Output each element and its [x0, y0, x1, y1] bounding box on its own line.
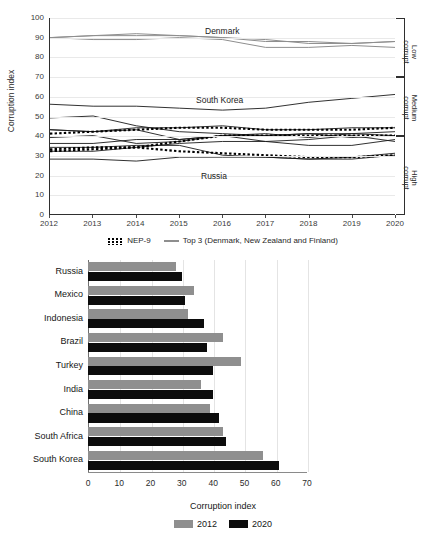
x-tick-mark [179, 215, 180, 218]
bar-category-label: South Korea [0, 455, 83, 464]
y-tick-label: 10 [26, 191, 44, 199]
bracket-label-high-corrupt: Highcorrupt [402, 150, 418, 206]
figure-container: Corruption index 0102030405060708090100 … [0, 0, 446, 533]
bar-turkey-2012 [88, 357, 241, 366]
gray-line-icon [164, 240, 179, 242]
bar-chart-legend: 2012 2020 [0, 519, 446, 529]
bar-gridline [245, 260, 246, 472]
bar-category-label: Mexico [0, 290, 83, 299]
x-tick-mark [265, 215, 266, 218]
x-tick-label: 2016 [206, 220, 238, 228]
gridline [50, 18, 395, 19]
line-series-finland [50, 38, 395, 48]
bar-brazil-2012 [88, 333, 223, 342]
y-tick-label: 0 [26, 211, 44, 219]
gridline [50, 57, 395, 58]
x-tick-label: 2017 [249, 220, 281, 228]
bar-gridline [308, 260, 309, 472]
bar-x-tick-label: 70 [293, 479, 321, 488]
bar-china-2012 [88, 404, 210, 413]
bar-x-tick-label: 40 [199, 479, 227, 488]
bar-russia-2020 [88, 272, 182, 281]
x-tick-label: 2015 [163, 220, 195, 228]
legend-item-nep-9: NEP-9 [108, 236, 151, 245]
line-series-nep-9-upper-average [50, 128, 395, 134]
line-chart: Corruption index 0102030405060708090100 … [0, 0, 446, 258]
gridline [50, 195, 395, 196]
bar-india-2020 [88, 390, 213, 399]
legend-label-2012: 2012 [197, 519, 217, 529]
legend-item-2012: 2012 [174, 519, 217, 529]
bar-china-2020 [88, 413, 219, 422]
bar-category-label: Brazil [0, 337, 83, 346]
gridline [50, 77, 395, 78]
x-tick-mark [222, 215, 223, 218]
legend-label-top-3: Top 3 (Denmark, New Zealand and Finland) [183, 236, 338, 245]
bar-category-label: China [0, 408, 83, 417]
gridline [50, 136, 395, 137]
bar-south-korea-2020 [88, 461, 279, 470]
y-tick-label: 70 [26, 73, 44, 81]
x-tick-label: 2019 [336, 220, 368, 228]
bar-south-africa-2012 [88, 427, 223, 436]
bar-india-2012 [88, 380, 201, 389]
y-tick-label: 30 [26, 152, 44, 160]
y-tick-label: 50 [26, 113, 44, 121]
bar-x-tick-label: 20 [137, 479, 165, 488]
bar-category-label: Indonesia [0, 314, 83, 323]
bar-x-tick-label: 10 [105, 479, 133, 488]
y-tick-label: 60 [26, 93, 44, 101]
bar-indonesia-2012 [88, 309, 188, 318]
bar-chart-x-axis-title: Corruption index [0, 501, 446, 511]
y-tick-label: 20 [26, 172, 44, 180]
bar-chart-x-axis-line [88, 472, 307, 473]
annotation-russia: Russia [201, 172, 227, 181]
line-chart-plot-area [49, 18, 395, 215]
x-tick-label: 2013 [76, 220, 108, 228]
line-series-india [50, 134, 395, 144]
bar-category-label: India [0, 385, 83, 394]
y-tick-label: 90 [26, 34, 44, 42]
gridline [50, 117, 395, 118]
bar-category-label: Turkey [0, 361, 83, 370]
bar-x-tick-label: 60 [262, 479, 290, 488]
bar-chart: RussiaMexicoIndonesiaBrazilTurkeyIndiaCh… [0, 258, 446, 533]
bar-turkey-2020 [88, 366, 213, 375]
y-tick-label: 100 [26, 14, 44, 22]
gridline [50, 156, 395, 157]
dotted-line-icon [108, 237, 123, 245]
y-tick-label: 80 [26, 53, 44, 61]
x-tick-label: 2014 [120, 220, 152, 228]
bar-mexico-2020 [88, 296, 185, 305]
bar-category-label: Russia [0, 267, 83, 276]
bar-brazil-2020 [88, 343, 207, 352]
x-tick-mark [136, 215, 137, 218]
annotation-denmark: Denmark [205, 27, 239, 36]
bar-south-korea-2012 [88, 451, 263, 460]
line-chart-legend: NEP-9 Top 3 (Denmark, New Zealand and Fi… [0, 236, 446, 245]
x-tick-label: 2020 [379, 220, 411, 228]
x-tick-label: 2012 [33, 220, 65, 228]
legend-item-top-3: Top 3 (Denmark, New Zealand and Finland) [164, 236, 338, 245]
bar-x-tick-label: 0 [74, 479, 102, 488]
x-tick-label: 2018 [293, 220, 325, 228]
annotation-south-korea: South Korea [196, 96, 243, 105]
bar-gridline [277, 260, 278, 472]
bracket-label-medium-corrupt: Mediumcorrupt [402, 80, 418, 136]
bar-x-tick-label: 50 [230, 479, 258, 488]
line-chart-y-axis-title: Corruption index [6, 56, 16, 146]
bar-mexico-2012 [88, 286, 194, 295]
bar-category-label: South Africa [0, 432, 83, 441]
bar-x-tick-label: 30 [168, 479, 196, 488]
black-swatch-icon [229, 520, 248, 528]
bracket-label-low-corrupt: Lowcorrupt [402, 24, 418, 80]
x-tick-mark [352, 215, 353, 218]
x-tick-mark [92, 215, 93, 218]
legend-label-2020: 2020 [252, 519, 272, 529]
y-tick-label: 40 [26, 132, 44, 140]
x-tick-mark [309, 215, 310, 218]
bar-indonesia-2020 [88, 319, 204, 328]
bar-russia-2012 [88, 262, 176, 271]
bar-south-africa-2020 [88, 437, 226, 446]
gridline [50, 38, 395, 39]
